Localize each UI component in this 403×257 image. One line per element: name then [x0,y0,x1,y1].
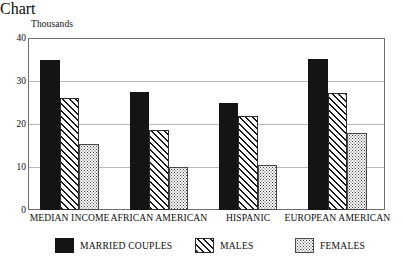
legend-label: MALES [220,240,254,251]
y-tick-label-20: 20 [2,119,26,129]
bar-females[interactable] [169,167,189,210]
bar-married-couples[interactable] [130,92,150,210]
legend-item[interactable]: MARRIED COUPLES [55,238,172,253]
bar-married-couples[interactable] [308,59,328,210]
diagonal-hatch-swatch [195,238,214,253]
bar-married-couples[interactable] [219,103,239,211]
y-axis-unit-caption: Thousands [31,19,73,29]
bar-males[interactable] [328,93,348,210]
x-label-european-american: EUROPEAN AMERICAN [277,212,397,223]
solid-black-swatch [55,238,74,253]
stipple-dots-swatch [295,238,314,253]
legend-label: MARRIED COUPLES [80,240,172,251]
bar-males[interactable] [149,130,169,210]
bar-group [117,38,206,210]
y-tick-label-40: 40 [2,33,26,43]
bar-females[interactable] [258,165,278,210]
bar-females[interactable] [79,144,99,210]
legend-item[interactable]: FEMALES [295,238,365,253]
legend-item[interactable]: MALES [195,238,254,253]
bar-group [296,38,385,210]
bar-group [207,38,296,210]
bar-males[interactable] [60,98,80,210]
x-axis-category-labels: MEDIAN INCOMEAFRICAN AMERICANHISPANICEUR… [0,212,403,228]
bar-males[interactable] [238,116,258,210]
legend-label: FEMALES [320,240,365,251]
bar-married-couples[interactable] [40,60,60,210]
y-tick-label-10: 10 [2,162,26,172]
bars-layer [28,38,385,210]
bar-females[interactable] [347,133,367,210]
chart-legend: MARRIED COUPLESMALESFEMALES [0,238,403,257]
y-tick-label-30: 30 [2,76,26,86]
bar-group [28,38,117,210]
bar-chart: Thousands 010203040 MEDIAN INCOMEAFRICAN… [0,18,403,257]
